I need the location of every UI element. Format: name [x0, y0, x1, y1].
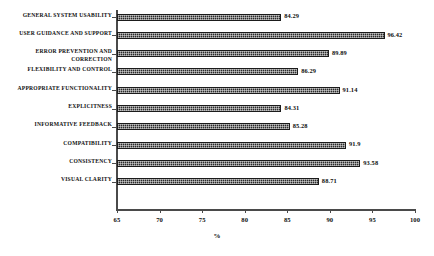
bar — [117, 123, 290, 130]
bar-value-label: 88.71 — [322, 177, 337, 184]
x-axis-tick-label: 100 — [410, 216, 420, 223]
category-label: USER GUIDANCE AND SUPPORT — [0, 30, 112, 37]
x-axis-tick-label: 75 — [199, 216, 206, 223]
usability-bar-chart: GENERAL SYSTEM USABILITY84.29USER GUIDAN… — [0, 0, 434, 256]
x-axis-tick-label: 80 — [241, 216, 248, 223]
bar-fill — [117, 32, 385, 39]
bar-fill — [117, 160, 360, 167]
x-axis-tick — [160, 209, 161, 213]
bar-value-label: 84.29 — [284, 12, 299, 19]
x-axis-tick-label: 65 — [114, 216, 121, 223]
bar — [117, 160, 360, 167]
bar-fill — [117, 87, 340, 94]
bar-fill — [117, 50, 329, 57]
bar — [117, 68, 298, 75]
bar-value-label: 86.29 — [301, 67, 316, 74]
x-axis-line — [116, 209, 416, 211]
x-axis-tick — [202, 209, 203, 213]
bar — [117, 32, 385, 39]
bar-fill — [117, 123, 290, 130]
category-label: VISUAL CLARITY — [0, 176, 112, 183]
bar-row: VISUAL CLARITY88.71 — [0, 178, 434, 196]
category-label: EXPLICITNESS — [0, 103, 112, 110]
x-axis-tick-label: 85 — [284, 216, 291, 223]
bar-value-label: 96.42 — [388, 31, 403, 38]
bar — [117, 87, 340, 94]
x-axis-tick — [117, 209, 118, 213]
category-label: GENERAL SYSTEM USABILITY — [0, 12, 112, 19]
category-label: APPROPRIATE FUNCTIONALITY — [0, 85, 112, 92]
bar — [117, 50, 329, 57]
category-label: FLEXIBILITY AND CONTROL — [0, 66, 112, 73]
bar — [117, 178, 319, 185]
category-label: COMPATIBILITY — [0, 140, 112, 147]
x-axis-tick-label: 90 — [326, 216, 333, 223]
bar — [117, 105, 281, 112]
bar-value-label: 93.58 — [363, 159, 378, 166]
bar-value-label: 85.28 — [293, 122, 308, 129]
bar — [117, 142, 346, 149]
x-axis-tick — [372, 209, 373, 213]
x-axis-tick-label: 95 — [369, 216, 376, 223]
bar — [117, 14, 281, 21]
bar-value-label: 84.31 — [284, 104, 299, 111]
bar-fill — [117, 14, 281, 21]
x-axis-tick-label: 70 — [156, 216, 163, 223]
bar-fill — [117, 68, 298, 75]
x-axis-title: % — [0, 232, 434, 240]
bar-value-label: 91.14 — [343, 86, 358, 93]
bar-fill — [117, 142, 346, 149]
bar-value-label: 89.89 — [332, 49, 347, 56]
x-axis-tick — [245, 209, 246, 213]
x-axis-tick — [415, 209, 416, 213]
bar-fill — [117, 105, 281, 112]
x-axis-tick — [330, 209, 331, 213]
category-label: CONSISTENCY — [0, 158, 112, 165]
bar-fill — [117, 178, 319, 185]
category-label: ERROR PREVENTION AND CORRECTION — [0, 48, 112, 63]
category-label: INFORMATIVE FEEDBACK — [0, 121, 112, 128]
bar-value-label: 91.9 — [349, 140, 361, 147]
x-axis-tick — [287, 209, 288, 213]
